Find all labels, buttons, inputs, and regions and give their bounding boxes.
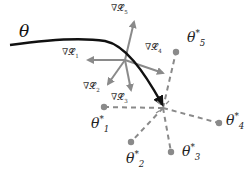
trajectory-curve [10,39,162,104]
dash-to-theta3 [163,108,171,152]
theta3-dot [168,149,174,155]
grad-symbol: ∇𝓛 [83,81,96,91]
grad-index: 1 [75,53,79,59]
grad-label-1: ∇𝓛1 [62,47,79,58]
grad-symbol: ∇𝓛 [111,92,124,102]
grad-arrow-4 [125,60,163,73]
grad-label-2: ∇𝓛2 [83,81,100,92]
target-label-4: θ*4 [226,112,244,128]
grad-index: 5 [124,9,128,15]
grad-symbol: ∇𝓛 [62,47,75,57]
grad-label-3: ∇𝓛3 [111,92,128,103]
meta-learning-diagram [0,0,248,175]
target-index: 4 [239,121,245,131]
dash-to-theta5 [163,52,176,108]
theta-symbol: θ [19,21,29,41]
grad-symbol: ∇𝓛 [145,42,158,52]
target-index: 2 [139,159,145,169]
gradient-arrows [88,22,163,90]
grad-arrow-3 [125,60,131,90]
grad-symbol: ∇𝓛 [111,3,124,13]
grad-label-5: ∇𝓛5 [111,3,128,14]
target-label-3: θ*3 [182,143,200,159]
target-index: 1 [104,124,110,134]
dash-to-theta1 [104,107,163,108]
theta2-dot [128,139,134,145]
dash-to-theta4 [163,108,219,123]
target-label-1: θ*1 [91,115,109,131]
grad-index: 2 [96,87,100,93]
theta5-dot [173,49,179,55]
target-label-5: θ*5 [187,29,205,45]
target-index: 3 [195,152,201,162]
grad-index: 4 [158,48,162,54]
grad-index: 3 [124,98,128,104]
target-index: 5 [200,38,206,48]
grad-label-4: ∇𝓛4 [145,42,162,53]
target-label-2: θ*2 [126,150,144,166]
theta4-dot [216,120,222,126]
theta1-dot [101,104,107,110]
dash-to-theta2 [131,108,163,142]
trajectory-label: θ [19,21,29,41]
grad-arrow-2 [108,60,125,84]
